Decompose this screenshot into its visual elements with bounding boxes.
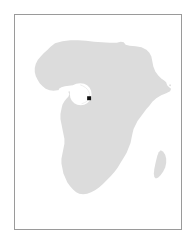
figure-root: Outline map of Africa in light gray with… (0, 0, 196, 242)
site-marker[interactable] (87, 96, 91, 100)
africa-locator-map[interactable] (15, 15, 181, 229)
map-frame (14, 14, 182, 230)
